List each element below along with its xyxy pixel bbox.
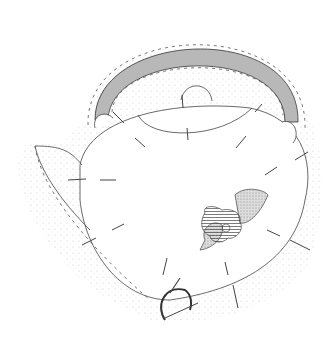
teapot-illustration	[0, 0, 333, 346]
teapot-drawing	[0, 0, 333, 346]
